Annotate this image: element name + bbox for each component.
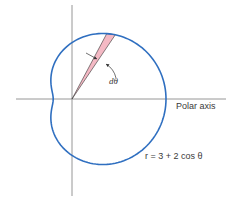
equation-label: r = 3 + 2 cos θ	[145, 151, 203, 161]
polar-axis-label: Polar axis	[176, 101, 216, 111]
dtheta-label: dθ	[109, 76, 118, 86]
polar-area-diagram: dθ Polar axis r = 3 + 2 cos θ	[0, 0, 236, 204]
